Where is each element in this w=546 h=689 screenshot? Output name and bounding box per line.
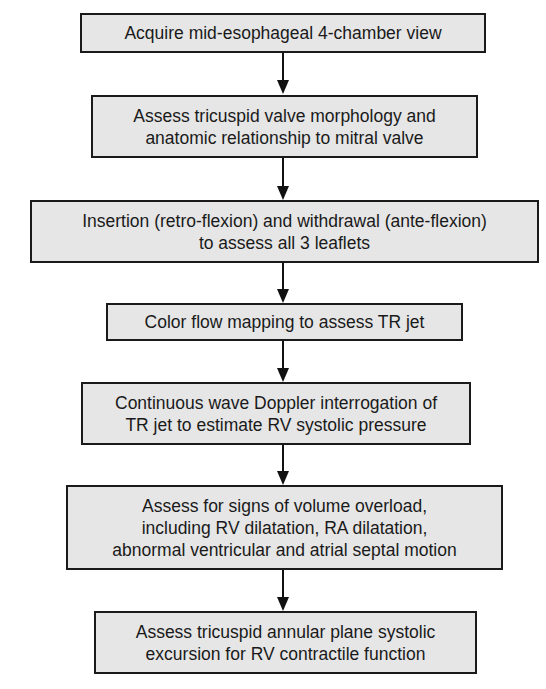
connector-2 (282, 158, 284, 188)
step-1-acquire-view: Acquire mid-esophageal 4-chamber view (80, 13, 486, 53)
step-4-color-flow: Color flow mapping to assess TR jet (106, 303, 463, 341)
arrow-down-icon (277, 597, 289, 611)
step-5-cw-doppler: Continuous wave Doppler interrogation of… (81, 382, 471, 445)
connector-1 (282, 53, 284, 83)
connector-3 (282, 263, 284, 291)
connector-5 (282, 445, 284, 473)
arrow-down-icon (277, 368, 289, 382)
arrow-down-icon (277, 186, 289, 200)
step-3-insertion-withdrawal: Insertion (retro-flexion) and withdrawal… (30, 200, 539, 263)
connector-4 (282, 341, 284, 370)
arrow-down-icon (277, 289, 289, 303)
arrow-down-icon (277, 471, 289, 485)
step-6-volume-overload: Assess for signs of volume overload, inc… (66, 485, 503, 570)
step-2-assess-morphology: Assess tricuspid valve morphology and an… (91, 95, 478, 158)
arrow-down-icon (277, 80, 289, 94)
connector-6 (282, 570, 284, 598)
step-7-tapse: Assess tricuspid annular plane systolic … (94, 611, 477, 674)
